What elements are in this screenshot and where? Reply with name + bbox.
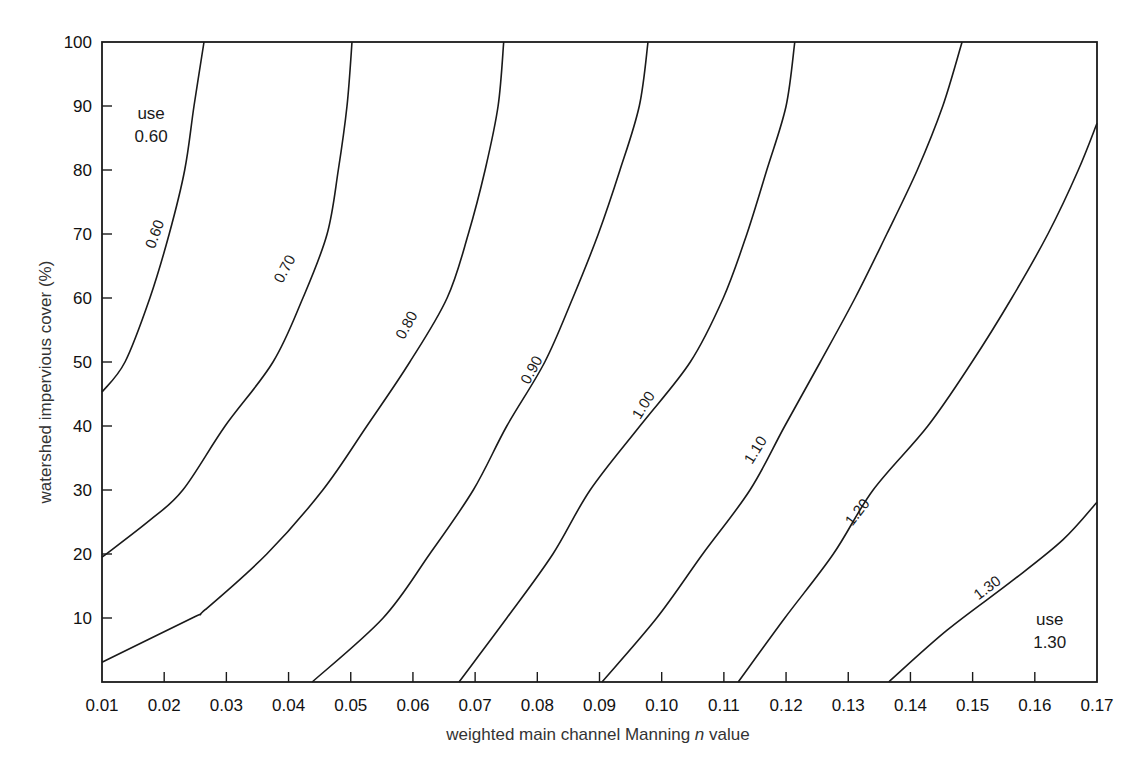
curve-label-0-80: 0.80 xyxy=(392,308,421,342)
x-tick-label: 0.12 xyxy=(770,696,803,715)
y-tick-label: 50 xyxy=(73,353,92,372)
x-axis-title-part: value xyxy=(704,725,749,744)
y-tick-label: 80 xyxy=(73,161,92,180)
manning-n-chart: 102030405060708090100 0.010.020.030.040.… xyxy=(0,0,1146,780)
x-tick-label: 0.03 xyxy=(210,696,243,715)
x-axis-title-italic-n: n xyxy=(695,725,704,744)
curve-label-0-70: 0.70 xyxy=(270,252,299,286)
curve-1-10 xyxy=(602,42,962,682)
x-tick-label: 0.04 xyxy=(272,696,305,715)
x-axis-title: weighted main channel Manning n value xyxy=(445,725,749,744)
x-tick-label: 0.17 xyxy=(1080,696,1113,715)
x-tick-label: 0.13 xyxy=(832,696,865,715)
y-tick-label: 70 xyxy=(73,225,92,244)
x-tick-label: 0.06 xyxy=(396,696,429,715)
y-tick-label: 60 xyxy=(73,289,92,308)
x-tick-label: 0.08 xyxy=(521,696,554,715)
use-value-note: use0.60 xyxy=(135,104,168,146)
x-tick-label: 0.15 xyxy=(956,696,989,715)
x-tick-label: 0.02 xyxy=(148,696,181,715)
x-tick-label: 0.09 xyxy=(583,696,616,715)
y-axis-title: watershed impervious cover (%) xyxy=(36,261,55,505)
use-value-note: use1.30 xyxy=(1033,610,1066,652)
x-tick-label: 0.05 xyxy=(334,696,367,715)
y-tick-label: 90 xyxy=(73,97,92,116)
annotations: use0.60use1.30 xyxy=(135,104,1067,652)
y-tick-label: 100 xyxy=(64,33,92,52)
y-tick-label: 30 xyxy=(73,481,92,500)
contour-curves xyxy=(102,42,1097,682)
x-tick-label: 0.16 xyxy=(1018,696,1051,715)
curve-0-60 xyxy=(102,42,204,392)
y-tick-label: 10 xyxy=(73,609,92,628)
x-tick-label: 0.10 xyxy=(645,696,678,715)
x-tick-label: 0.14 xyxy=(894,696,927,715)
x-tick-label: 0.07 xyxy=(459,696,492,715)
y-tick-label: 20 xyxy=(73,545,92,564)
contour-curve-labels: 0.600.700.800.901.001.101.201.30 xyxy=(141,217,1003,603)
x-tick-label: 0.01 xyxy=(85,696,118,715)
x-axis-title-part: weighted main channel Manning xyxy=(445,725,695,744)
curve-label-1-20: 1.20 xyxy=(841,495,872,528)
curve-1-00 xyxy=(459,42,795,682)
curve-label-0-60: 0.60 xyxy=(141,217,167,250)
curve-label-1-30: 1.30 xyxy=(970,572,1004,603)
x-tick-label: 0.11 xyxy=(708,696,740,715)
curve-0-90 xyxy=(312,42,648,682)
curve-1-20 xyxy=(738,123,1097,682)
y-tick-label: 40 xyxy=(73,417,92,436)
y-axis-ticks: 102030405060708090100 xyxy=(64,33,112,628)
curve-label-1-00: 1.00 xyxy=(628,388,658,422)
x-axis-ticks: 0.010.020.030.040.050.060.070.080.090.10… xyxy=(85,672,1113,715)
plot-frame xyxy=(102,42,1097,682)
